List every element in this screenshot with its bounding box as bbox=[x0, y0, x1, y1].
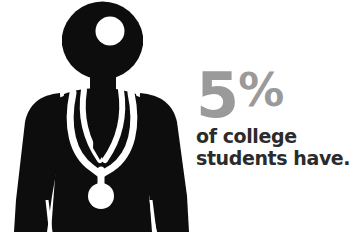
percent-symbol: % bbox=[238, 63, 283, 117]
infographic-canvas: 5% of college students have. bbox=[0, 0, 358, 249]
stethoscope-chestpiece-icon bbox=[88, 183, 114, 209]
head-group bbox=[62, 1, 143, 79]
stat-caption-line-2: students have. bbox=[196, 148, 356, 170]
necktie-knot bbox=[95, 95, 105, 108]
head-mirror-icon bbox=[96, 17, 125, 46]
stat-value: 5 bbox=[196, 59, 238, 132]
stat-percentage: 5% bbox=[196, 60, 356, 126]
doctor-pictogram bbox=[0, 0, 200, 249]
stat-block: 5% of college students have. bbox=[196, 60, 356, 190]
stat-caption: of college students have. bbox=[196, 126, 356, 169]
stat-caption-line-1: of college bbox=[196, 126, 356, 148]
